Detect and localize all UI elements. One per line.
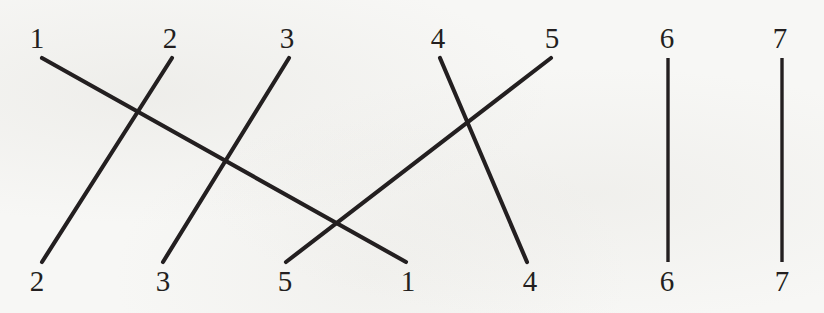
bottom-label-4: 1 [401,267,416,296]
strand-3 [163,58,289,262]
permutation-diagram: 1234567 2351467 [0,0,824,313]
bottom-label-5: 4 [523,267,538,296]
strand-group [42,58,782,262]
bottom-label-6: 6 [660,267,675,296]
top-label-5: 5 [545,24,560,53]
top-label-1: 1 [30,24,45,53]
bottom-label-1: 2 [30,267,45,296]
top-label-3: 3 [280,24,295,53]
bottom-label-7: 7 [775,267,790,296]
top-label-7: 7 [773,24,788,53]
bottom-label-2: 3 [156,267,171,296]
strand-2 [42,58,172,262]
top-label-4: 4 [431,24,446,53]
strand-5 [286,58,551,262]
top-label-2: 2 [163,24,178,53]
top-label-6: 6 [660,24,675,53]
bottom-label-3: 5 [278,267,293,296]
